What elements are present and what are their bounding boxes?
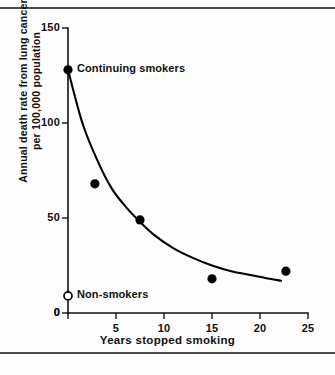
x-tick-label-20: 20 (240, 322, 280, 334)
data-point-1 (90, 179, 99, 188)
fitted-decay-curve (68, 70, 281, 281)
x-tick-label-15: 15 (192, 322, 232, 334)
plot-canvas (0, 0, 335, 375)
data-point-4 (281, 267, 290, 276)
data-point-2 (135, 215, 144, 224)
x-tick-label-25: 25 (288, 322, 328, 334)
y-axis-title: Annual death rate from lung cancer per 1… (17, 0, 43, 206)
figure-container: 050100150 0510152025 Continuing smokersN… (0, 0, 335, 375)
x-tick-label-10: 10 (144, 322, 184, 334)
data-point-3 (207, 274, 216, 283)
y-axis-title-line-2: per 100,000 population (30, 0, 43, 206)
data-point-open-0 (64, 292, 72, 300)
x-tick-marks (68, 313, 308, 319)
x-tick-label-5: 5 (96, 322, 136, 334)
x-tick-label-0: 0 (34, 306, 60, 318)
y-axis-title-line-1: Annual death rate from lung cancer (17, 0, 30, 206)
annotation-continuing-smokers: Continuing smokers (77, 62, 185, 74)
data-points-group (63, 65, 290, 300)
x-axis-title: Years stopped smoking (0, 334, 335, 346)
y-tick-label-50: 50 (18, 211, 60, 223)
annotation-non-smokers: Non-smokers (77, 288, 148, 300)
data-point-0 (63, 65, 72, 74)
